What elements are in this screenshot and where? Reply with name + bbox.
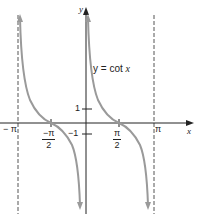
- y-tick-label-1: 1: [75, 104, 80, 113]
- cot-branch-right: [88, 18, 148, 205]
- cot-graph: [0, 0, 197, 216]
- arrow-down-icon: [145, 202, 151, 210]
- function-label-var: x: [126, 63, 130, 74]
- y-tick-label-neg1: −1: [68, 129, 78, 138]
- frac-numerator: π: [113, 129, 121, 140]
- function-label: y = cot x: [93, 64, 130, 74]
- x-tick-label-half-pi: π 2: [113, 129, 121, 150]
- x-tick-label-pi: π: [155, 125, 161, 134]
- frac-denominator: 2: [113, 140, 121, 150]
- x-tick-label-neg-half-pi: −π 2: [42, 129, 55, 150]
- frac-numerator: −π: [42, 129, 55, 140]
- cot-branch-left: [20, 18, 80, 205]
- y-axis-arrow-icon: [83, 7, 89, 15]
- x-axis-label: x: [187, 127, 191, 136]
- y-axis-label: y: [79, 5, 83, 14]
- x-tick-label-neg-pi: − π: [3, 125, 17, 134]
- function-label-text: y = cot: [93, 63, 123, 74]
- frac-denominator: 2: [42, 140, 55, 150]
- arrow-down-icon: [77, 202, 83, 210]
